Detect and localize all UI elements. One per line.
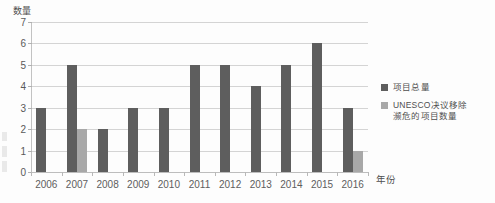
x-axis-tick-label: 2010 <box>158 179 180 190</box>
y-axis-tick-label: 6 <box>20 38 26 49</box>
y-tick-mark <box>28 108 32 109</box>
y-axis-tick-label: 3 <box>20 102 26 113</box>
bar-total[interactable] <box>220 65 230 172</box>
bar-group[interactable] <box>128 22 148 172</box>
bar-group[interactable] <box>312 22 332 172</box>
x-tick-mark <box>123 172 124 176</box>
legend-swatch <box>381 102 388 109</box>
bar-group[interactable] <box>98 22 118 172</box>
bar-removed[interactable] <box>77 129 87 172</box>
x-axis-tick-label: 2013 <box>250 179 272 190</box>
y-axis-tick-label: 0 <box>20 167 26 178</box>
x-axis-tick-label: 2014 <box>280 179 302 190</box>
plot-area: 01234567 2006200720082009201020112012201… <box>31 22 368 172</box>
bar-group[interactable] <box>36 22 56 172</box>
bar-total[interactable] <box>343 108 353 172</box>
y-axis-tick-label: 7 <box>20 17 26 28</box>
x-axis-tick-label: 2012 <box>219 179 241 190</box>
scan-artifact <box>2 146 7 157</box>
x-tick-mark <box>92 172 93 176</box>
y-tick-mark <box>28 65 32 66</box>
gridline <box>31 172 368 173</box>
y-axis-tick-label: 1 <box>20 145 26 156</box>
legend-item[interactable]: 项目总量 <box>381 82 493 93</box>
bar-total[interactable] <box>251 86 261 172</box>
y-tick-mark <box>28 129 32 130</box>
bar-group[interactable] <box>67 22 87 172</box>
bar-group[interactable] <box>343 22 363 172</box>
x-tick-mark <box>62 172 63 176</box>
x-axis-tick-label: 2011 <box>189 179 211 190</box>
y-tick-mark <box>28 151 32 152</box>
y-axis-title: 数量 <box>13 4 32 17</box>
x-axis-title: 年份 <box>376 172 396 186</box>
bar-chart: 数量 01234567 2006200720082009201020112012… <box>0 0 495 203</box>
bar-group[interactable] <box>281 22 301 172</box>
bar-total[interactable] <box>159 108 169 172</box>
x-tick-mark <box>184 172 185 176</box>
bar-total[interactable] <box>36 108 46 172</box>
bar-total[interactable] <box>190 65 200 172</box>
y-axis-tick-label: 2 <box>20 124 26 135</box>
bar-total[interactable] <box>281 65 291 172</box>
scan-artifact <box>2 132 7 141</box>
x-tick-mark <box>337 172 338 176</box>
bar-removed[interactable] <box>353 151 363 172</box>
bar-group[interactable] <box>190 22 210 172</box>
y-tick-mark <box>28 86 32 87</box>
legend-label: 项目总量 <box>393 82 430 93</box>
bar-total[interactable] <box>128 108 138 172</box>
x-tick-mark <box>368 172 369 176</box>
legend-label: UNESCO决议移除濒危的项目数量 <box>393 100 467 122</box>
y-tick-mark <box>28 22 32 23</box>
x-tick-mark <box>31 172 32 176</box>
bar-total[interactable] <box>312 43 322 172</box>
y-axis-tick-label: 5 <box>20 59 26 70</box>
x-tick-mark <box>215 172 216 176</box>
y-axis-tick-label: 4 <box>20 81 26 92</box>
y-tick-mark <box>28 43 32 44</box>
x-axis-tick-label: 2008 <box>96 179 118 190</box>
bar-total[interactable] <box>67 65 77 172</box>
bar-group[interactable] <box>251 22 271 172</box>
scan-artifact <box>2 161 7 172</box>
x-tick-mark <box>276 172 277 176</box>
legend-item[interactable]: UNESCO决议移除濒危的项目数量 <box>381 100 493 122</box>
chart-legend: 项目总量UNESCO决议移除濒危的项目数量 <box>381 82 493 129</box>
x-axis-tick-label: 2009 <box>127 179 149 190</box>
x-tick-mark <box>154 172 155 176</box>
x-tick-mark <box>245 172 246 176</box>
x-axis-tick-label: 2015 <box>311 179 333 190</box>
x-axis-tick-label: 2016 <box>342 179 364 190</box>
legend-swatch <box>381 84 388 91</box>
x-axis-tick-label: 2007 <box>66 179 88 190</box>
bar-total[interactable] <box>98 129 108 172</box>
bar-group[interactable] <box>159 22 179 172</box>
bar-group[interactable] <box>220 22 240 172</box>
x-axis-tick-label: 2006 <box>35 179 57 190</box>
x-tick-mark <box>307 172 308 176</box>
y-axis-line <box>31 22 32 172</box>
